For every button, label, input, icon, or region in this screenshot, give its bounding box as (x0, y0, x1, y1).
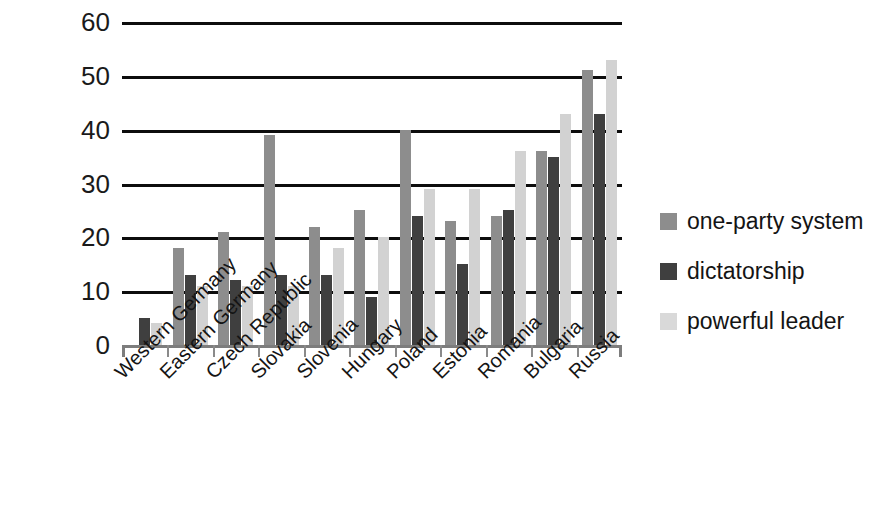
legend-label: one-party system (687, 210, 863, 233)
bar-chart: 6050403020100 Western GermanyEastern Ger… (0, 0, 875, 517)
legend-label: powerful leader (687, 310, 844, 333)
legend-swatch-icon (660, 263, 677, 280)
legend-swatch-icon (660, 313, 677, 330)
legend-item[interactable]: powerful leader (660, 296, 875, 346)
chart-legend: one-party systemdictatorshippowerful lea… (660, 196, 875, 346)
legend-item[interactable]: one-party system (660, 196, 875, 246)
legend-item[interactable]: dictatorship (660, 246, 875, 296)
legend-label: dictatorship (687, 260, 805, 283)
legend-swatch-icon (660, 213, 677, 230)
